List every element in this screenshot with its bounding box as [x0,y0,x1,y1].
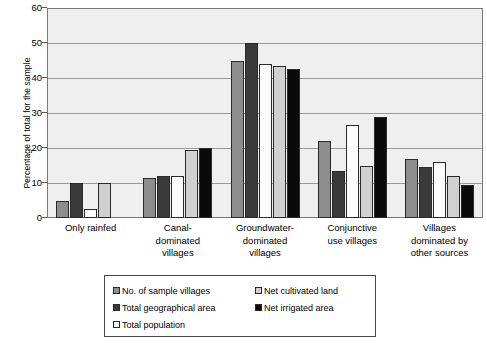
x-axis-label: Conjunctiveuse villages [309,222,396,260]
y-axis-tick-label: 50 [0,38,42,48]
x-axis-label-line: Groundwater- [223,222,306,235]
y-axis-tick-label: 30 [0,108,42,118]
x-axis-label-line: other sources [398,247,481,260]
bar-group [221,8,308,218]
x-axis-label: Canal-dominatedvillages [134,222,221,260]
bar-group [134,8,221,218]
bar [143,178,156,218]
x-axis-label-line: use villages [311,235,394,248]
legend-entry: Net cultivated land [255,286,385,296]
y-axis-tick-label: 0 [0,213,42,223]
x-axis-labels: Only rainfedCanal-dominatedvillagesGroun… [47,222,483,260]
x-axis-label-line: dominated [136,235,219,248]
legend-label: Total geographical area [122,303,216,313]
legend-swatch-icon [113,304,120,311]
y-axis-tick-label: 20 [0,143,42,153]
bar-groups [47,8,483,218]
x-axis-label: Villagesdominated byother sources [396,222,483,260]
legend-swatch-icon [113,321,120,328]
bar-chart-figure: Percentage of total for the sample 01020… [0,0,487,347]
bar [433,162,446,218]
bar [259,64,272,218]
bar [273,66,286,218]
y-axis-tick-label: 60 [0,3,42,13]
legend-entry: Total geographical area [113,303,255,313]
bar [405,159,418,219]
x-axis-label-line: Canal- [136,222,219,235]
bar [374,117,387,219]
x-axis-label-line: villages [136,247,219,260]
legend-label: Total population [122,320,185,330]
bar [231,61,244,219]
bar [84,209,97,218]
x-axis-label: Only rainfed [47,222,134,260]
bar [98,183,111,218]
bar [461,185,474,218]
bar [332,171,345,218]
bar [157,176,170,218]
bar [185,150,198,218]
bar-group [396,8,483,218]
x-axis-label-line: Only rainfed [49,222,132,235]
x-axis-label-line: Villages [398,222,481,235]
bar [171,176,184,218]
bar [56,201,69,219]
bar [199,148,212,218]
bar [318,141,331,218]
bar [70,183,83,218]
bar [360,166,373,219]
chart-legend: No. of sample villagesNet cultivated lan… [104,275,376,337]
legend-entry: Net irrigated area [255,303,385,313]
legend-swatch-icon [255,304,262,311]
bar [346,125,359,218]
legend-swatch-icon [113,287,120,294]
legend-grid: No. of sample villagesNet cultivated lan… [113,282,367,333]
bar-group [309,8,396,218]
bar [287,69,300,218]
bar [447,176,460,218]
x-axis-label-line: villages [223,247,306,260]
bar [419,167,432,218]
legend-label: Net cultivated land [264,286,338,296]
bar-group [47,8,134,218]
legend-label: Net irrigated area [264,303,334,313]
bar [245,43,258,218]
y-axis-tick-label: 40 [0,73,42,83]
legend-swatch-icon [255,287,262,294]
x-axis-label-line: Conjunctive [311,222,394,235]
legend-entry: No. of sample villages [113,286,255,296]
y-axis-tick-label: 10 [0,178,42,188]
x-axis-label-line: dominated by [398,235,481,248]
x-axis-label-line: dominated [223,235,306,248]
x-axis-label: Groundwater-dominatedvillages [221,222,308,260]
legend-label: No. of sample villages [122,286,210,296]
legend-entry: Total population [113,320,255,330]
